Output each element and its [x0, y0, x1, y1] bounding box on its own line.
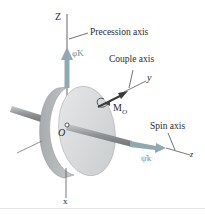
precession-vector-label: φ̇K	[72, 49, 84, 58]
spin-vector	[130, 141, 166, 153]
moment-subscript: O	[122, 108, 127, 116]
moment-label: MO	[113, 103, 127, 116]
precession-vector-shaft	[65, 58, 70, 88]
moment-symbol: M	[113, 102, 122, 113]
origin-point	[65, 123, 69, 127]
precession-leader	[69, 33, 88, 39]
Z-axis-label: Z	[55, 12, 61, 22]
couple-axis-label: Couple axis	[109, 55, 154, 65]
precession-axis-label: Precession axis	[90, 28, 148, 38]
x-axis-label: x	[63, 197, 68, 206]
spin-vector-label: ψ̇k	[141, 154, 151, 163]
y-axis-label: y	[147, 73, 151, 83]
spin-axis-label: Spin axis	[150, 122, 185, 132]
x-axis-hidden-line	[17, 141, 42, 153]
z-axis-label: z	[190, 151, 193, 159]
z-axis-line	[166, 148, 190, 155]
shaft-back	[10, 106, 44, 123]
y-axis-line	[124, 81, 146, 92]
bottom-divider	[0, 208, 205, 209]
spin-leader	[168, 133, 175, 150]
gyroscope-diagram: Z Precession axis φ̇K Couple axis y MO O…	[0, 0, 205, 214]
origin-label: O	[58, 128, 65, 138]
moment-vector-head	[118, 91, 128, 99]
couple-leader	[129, 70, 133, 88]
